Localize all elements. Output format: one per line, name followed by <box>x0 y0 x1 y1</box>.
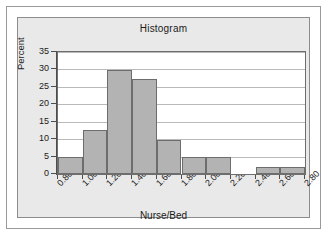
figure-outer-frame: Histogram Percent 05101520253035 0.801.0… <box>6 6 321 229</box>
y-tick-label: 30 <box>39 63 49 73</box>
histogram-bar <box>182 157 207 174</box>
y-tick-label: 0 <box>44 168 49 178</box>
y-tick-mark <box>51 103 56 104</box>
y-tick-mark <box>51 51 56 52</box>
chart-title: Histogram <box>18 23 309 34</box>
histogram-bar <box>58 157 83 174</box>
y-axis-title: Percent <box>15 37 26 70</box>
y-tick-label: 15 <box>39 116 49 126</box>
chart-panel: Histogram Percent 05101520253035 0.801.0… <box>17 17 310 218</box>
histogram-bar <box>280 167 305 174</box>
histogram-bar <box>206 157 231 174</box>
y-tick-label: 5 <box>44 151 49 161</box>
y-tick-label: 20 <box>39 98 49 108</box>
histogram-bar <box>107 70 132 174</box>
y-tick-mark <box>51 156 56 157</box>
y-tick-mark <box>51 68 56 69</box>
histogram-bar <box>83 130 108 174</box>
x-axis-title: Nurse/Bed <box>18 210 309 221</box>
histogram-bars <box>58 52 305 174</box>
y-tick-mark <box>51 138 56 139</box>
y-tick-label: 35 <box>39 46 49 56</box>
y-tick-mark <box>51 121 56 122</box>
histogram-bar <box>157 140 182 174</box>
y-tick-label: 10 <box>39 133 49 143</box>
y-tick-mark <box>51 86 56 87</box>
histogram-bar <box>132 79 157 175</box>
plot-area <box>57 51 306 175</box>
histogram-bar <box>256 167 281 174</box>
y-tick-label: 25 <box>39 81 49 91</box>
y-tick-mark <box>51 173 56 174</box>
